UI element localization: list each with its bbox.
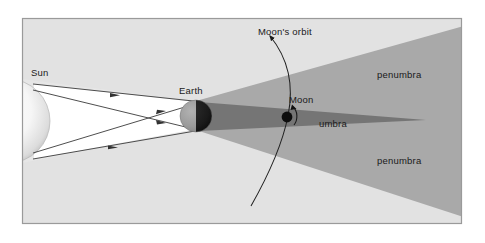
earth-body [180, 100, 212, 132]
moon-label: Moon [289, 94, 314, 105]
earth-label: Earth [179, 85, 203, 96]
sun-label: Sun [31, 67, 49, 78]
lunar-eclipse-diagram: Sun Earth Moon Moon's orbit umbra penumb… [0, 0, 485, 243]
penumbra-label-lower: penumbra [377, 155, 422, 166]
moon-body [282, 112, 293, 123]
moons-orbit-label: Moon's orbit [258, 26, 312, 37]
diagram-canvas: Sun Earth Moon Moon's orbit umbra penumb… [0, 0, 485, 243]
penumbra-label-upper: penumbra [377, 69, 422, 80]
umbra-label: umbra [319, 118, 347, 129]
